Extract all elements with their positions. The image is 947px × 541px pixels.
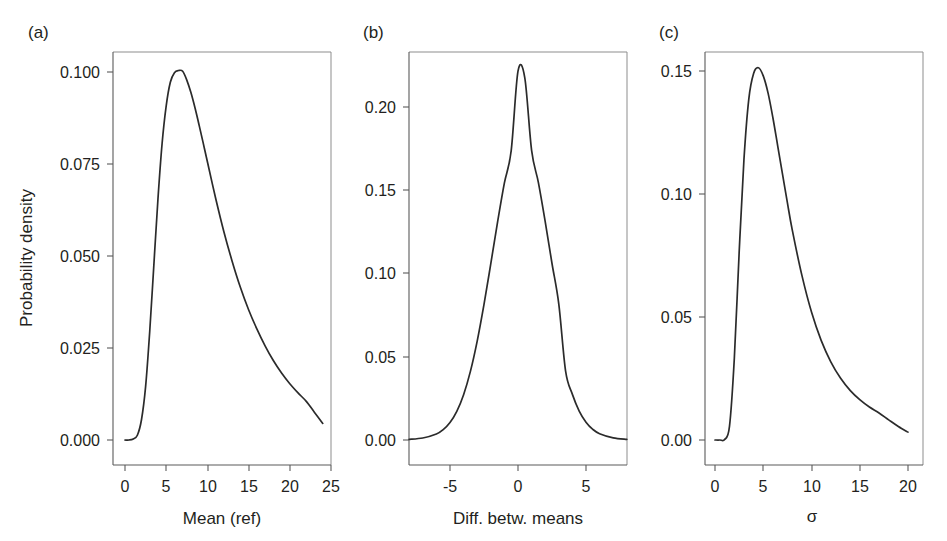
panel-a-x-axis-title: Mean (ref) — [183, 509, 261, 528]
panel-b: (b) 0.00 0.05 0.10 0.15 0.20 -5 0 — [363, 23, 627, 528]
panel-a-label: (a) — [28, 23, 49, 42]
panel-b-x-axis-title: Diff. betw. means — [453, 509, 583, 528]
panel-c-xtick-4: 20 — [899, 478, 917, 495]
panel-c-xtick-0: 0 — [711, 478, 720, 495]
panel-b-ytick-3: 0.15 — [365, 182, 396, 199]
panel-a-ytick-1: 0.025 — [60, 340, 100, 357]
panel-a-ytick-4: 0.100 — [60, 64, 100, 81]
panel-c-x-ticks — [715, 465, 908, 471]
panel-a-ytick-0: 0.000 — [60, 432, 100, 449]
panel-b-ytick-0: 0.00 — [365, 432, 396, 449]
panel-c-ytick-1: 0.05 — [661, 309, 692, 326]
panel-c: (c) 0.00 0.05 0.10 0.15 0 5 — [659, 23, 923, 526]
three-panel-density-figure: (a) 0.000 0.025 0.050 0.075 0.100 — [0, 0, 947, 541]
panel-b-ytick-4: 0.20 — [365, 99, 396, 116]
panel-c-label: (c) — [659, 23, 679, 42]
panel-a-y-ticks — [107, 72, 113, 440]
panel-c-xtick-1: 5 — [759, 478, 768, 495]
panel-a-xtick-1: 5 — [162, 478, 171, 495]
panel-a-xtick-4: 20 — [281, 478, 299, 495]
panel-a-xtick-5: 25 — [322, 478, 340, 495]
panel-c-density-curve — [715, 68, 908, 441]
panel-c-ytick-2: 0.10 — [661, 186, 692, 203]
panel-b-x-ticks — [450, 465, 586, 471]
panel-b-xtick-0: -5 — [443, 478, 457, 495]
panel-b-label: (b) — [363, 23, 384, 42]
panel-c-ytick-3: 0.15 — [661, 63, 692, 80]
figure-container: (a) 0.000 0.025 0.050 0.075 0.100 — [0, 0, 947, 541]
panel-c-frame — [705, 52, 923, 465]
panel-a-xtick-3: 15 — [240, 478, 258, 495]
panel-b-frame — [409, 52, 627, 465]
panel-b-ytick-1: 0.05 — [365, 349, 396, 366]
panel-a-xtick-2: 10 — [199, 478, 217, 495]
panel-c-y-ticks — [699, 71, 705, 440]
panel-a-frame — [113, 52, 331, 465]
panel-c-xtick-2: 10 — [803, 478, 821, 495]
panel-a-density-curve — [125, 70, 323, 440]
panel-c-ytick-0: 0.00 — [661, 432, 692, 449]
panel-b-y-ticks — [403, 107, 409, 440]
shared-y-axis-title: Probability density — [17, 189, 36, 327]
panel-c-x-axis-title: σ — [807, 507, 818, 526]
panel-a-ytick-3: 0.075 — [60, 156, 100, 173]
panel-b-xtick-2: 5 — [582, 478, 591, 495]
panel-b-ytick-2: 0.10 — [365, 265, 396, 282]
panel-a-x-ticks — [125, 465, 331, 471]
panel-a: (a) 0.000 0.025 0.050 0.075 0.100 — [17, 23, 340, 528]
panel-b-xtick-1: 0 — [514, 478, 523, 495]
panel-a-ytick-2: 0.050 — [60, 248, 100, 265]
panel-c-xtick-3: 15 — [851, 478, 869, 495]
panel-b-density-curve — [409, 65, 627, 440]
panel-a-xtick-0: 0 — [121, 478, 130, 495]
